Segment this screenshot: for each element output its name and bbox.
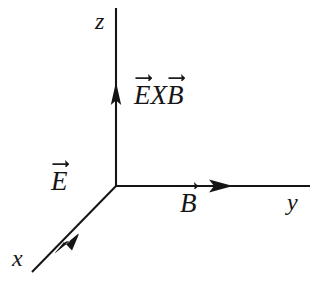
axis-label-y: y xyxy=(287,190,298,214)
axis-label-x: x xyxy=(12,246,23,270)
exb-b-vector-symbol: B xyxy=(167,80,184,109)
b-vector-label: B xyxy=(180,188,197,217)
e-vector-symbol: E xyxy=(51,166,68,195)
exb-e-vector-symbol: E xyxy=(134,80,151,109)
b-glyph: B xyxy=(180,190,197,217)
x-axis-line xyxy=(32,186,116,272)
e-vector-label: E xyxy=(51,166,68,195)
exb-b-glyph: B xyxy=(167,82,184,109)
y-axis-group xyxy=(116,180,310,193)
cross-product-operator: X xyxy=(151,82,168,109)
axis-label-z: z xyxy=(95,9,104,33)
axes-svg xyxy=(0,0,324,290)
x-axis-group xyxy=(32,186,116,272)
z-axis-group xyxy=(111,8,121,186)
exb-cross-product-label: E X B xyxy=(134,80,184,109)
vector-diagram-figure: z y x E B E X xyxy=(0,0,324,290)
b-vector-symbol: B xyxy=(180,188,197,217)
exb-e-glyph: E xyxy=(134,82,151,109)
e-glyph: E xyxy=(51,168,68,195)
